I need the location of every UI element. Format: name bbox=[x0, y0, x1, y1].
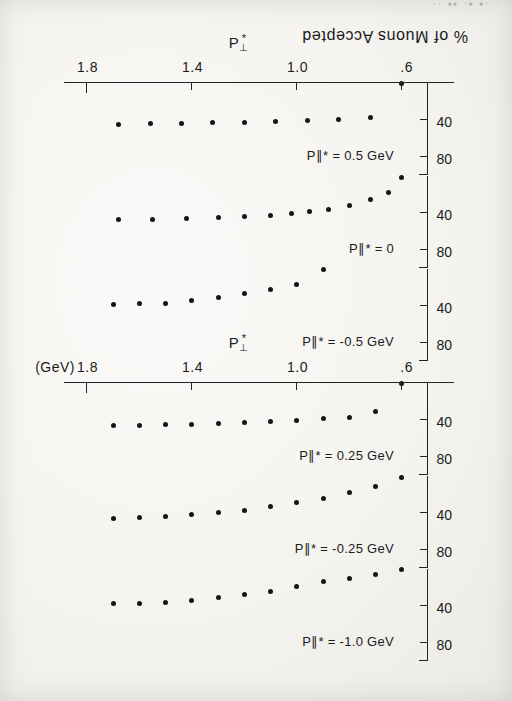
y-axis-tick bbox=[420, 605, 428, 606]
data-point bbox=[321, 267, 326, 272]
x-axis-tick bbox=[191, 83, 192, 90]
plot-panel: 4080P∥* = 0.5 GeV bbox=[64, 83, 454, 175]
data-point bbox=[368, 197, 373, 202]
x-axis-tick bbox=[401, 383, 402, 390]
y-axis-tick-label: 80 bbox=[436, 544, 452, 560]
data-point bbox=[111, 601, 116, 606]
y-axis-endcap bbox=[419, 474, 428, 475]
data-point bbox=[347, 415, 352, 420]
plot-panel: 4080P∥* = 0 bbox=[64, 176, 454, 268]
data-point bbox=[347, 203, 352, 208]
data-point bbox=[273, 119, 278, 124]
y-axis-tick bbox=[420, 512, 428, 513]
y-axis-tick bbox=[420, 156, 428, 157]
data-point bbox=[305, 118, 310, 123]
data-point bbox=[216, 215, 221, 220]
data-point bbox=[137, 301, 142, 306]
data-point bbox=[321, 579, 326, 584]
data-point bbox=[179, 121, 184, 126]
x-axis-tick-label: 1.4 bbox=[182, 359, 203, 375]
x-axis-tick bbox=[86, 83, 87, 93]
panel-column-left: 4080P∥* = -1.0 GeV4080P∥* = -0.25 GeV408… bbox=[64, 383, 454, 661]
data-point bbox=[111, 516, 116, 521]
data-point bbox=[184, 216, 189, 221]
data-point bbox=[137, 423, 142, 428]
data-point bbox=[326, 207, 331, 212]
y-axis-endcap bbox=[419, 267, 428, 268]
data-point bbox=[399, 175, 404, 180]
y-axis-tick bbox=[420, 119, 428, 120]
y-axis-tick-label: 40 bbox=[436, 300, 452, 316]
data-point bbox=[163, 422, 168, 427]
data-point bbox=[148, 121, 153, 126]
x-axis-tick-label: 1.0 bbox=[287, 59, 308, 75]
y-axis-endcap bbox=[419, 360, 428, 361]
data-point bbox=[116, 122, 121, 127]
plot-panel: 4080P∥* = -0.5 GeV bbox=[64, 269, 454, 361]
plot-panel: 4080P∥* = -1.0 GeV bbox=[64, 569, 454, 661]
data-point bbox=[268, 504, 273, 509]
y-axis-tick-label: 40 bbox=[436, 414, 452, 430]
data-point bbox=[336, 117, 341, 122]
x-axis-tick-label: .6 bbox=[400, 359, 413, 375]
x-axis-tick bbox=[296, 83, 297, 90]
x-axis-tick-label: 1.4 bbox=[182, 59, 203, 75]
y-axis-endcap bbox=[419, 174, 428, 175]
y-axis-tick-label: 80 bbox=[436, 637, 452, 653]
data-point bbox=[373, 572, 378, 577]
figure-canvas: 4080P∥* = -1.0 GeV4080P∥* = -0.25 GeV408… bbox=[0, 0, 512, 701]
data-point bbox=[216, 595, 221, 600]
data-point bbox=[216, 421, 221, 426]
data-point bbox=[163, 301, 168, 306]
data-point bbox=[150, 217, 155, 222]
data-point bbox=[190, 598, 195, 603]
x-axis-tick bbox=[86, 383, 87, 393]
y-axis-endcap bbox=[419, 660, 428, 661]
data-point bbox=[268, 589, 273, 594]
data-point bbox=[242, 420, 247, 425]
data-point bbox=[386, 190, 391, 195]
data-point bbox=[242, 214, 247, 219]
plot-panel: 4080P∥* = 0.25 GeV bbox=[64, 383, 454, 475]
data-point bbox=[321, 496, 326, 501]
data-point bbox=[163, 514, 168, 519]
y-axis bbox=[427, 269, 428, 361]
panel-label: P∥* = 0.5 GeV bbox=[307, 148, 394, 163]
data-point bbox=[294, 418, 299, 423]
panel-label: P∥* = 0 bbox=[349, 241, 394, 256]
data-point bbox=[116, 217, 121, 222]
panel-label: P∥* = -1.0 GeV bbox=[302, 634, 394, 649]
plot-area: 4080P∥* = -1.0 GeV4080P∥* = -0.25 GeV408… bbox=[64, 76, 454, 661]
data-point bbox=[321, 416, 326, 421]
y-axis-tick bbox=[420, 549, 428, 550]
y-axis-tick-label: 40 bbox=[436, 207, 452, 223]
y-axis-tick-label: 40 bbox=[436, 507, 452, 523]
data-point bbox=[216, 510, 221, 515]
data-point bbox=[347, 490, 352, 495]
data-point bbox=[163, 600, 168, 605]
data-point bbox=[308, 209, 313, 214]
panel-label: P∥* = -0.5 GeV bbox=[302, 334, 394, 349]
y-axis-tick-label: 80 bbox=[436, 337, 452, 353]
data-point bbox=[216, 295, 221, 300]
data-point bbox=[373, 484, 378, 489]
data-point bbox=[111, 423, 116, 428]
x-axis-tick-label: 1.0 bbox=[287, 359, 308, 375]
x-axis bbox=[64, 82, 454, 83]
y-axis-tick-label: 80 bbox=[436, 244, 452, 260]
y-axis-title: % of Muons Accepted bbox=[302, 27, 468, 45]
y-axis bbox=[427, 569, 428, 661]
y-axis bbox=[427, 383, 428, 475]
x-axis-title: P⊥* bbox=[229, 34, 252, 51]
x-axis-tick bbox=[401, 83, 402, 90]
data-point bbox=[268, 419, 273, 424]
x-axis-tick bbox=[296, 383, 297, 390]
y-axis-tick-label: 40 bbox=[436, 114, 452, 130]
data-point bbox=[268, 287, 273, 292]
data-point bbox=[111, 302, 116, 307]
data-point bbox=[137, 515, 142, 520]
x-axis bbox=[64, 382, 454, 383]
y-axis bbox=[427, 83, 428, 175]
data-point bbox=[242, 120, 247, 125]
data-point bbox=[399, 567, 404, 572]
